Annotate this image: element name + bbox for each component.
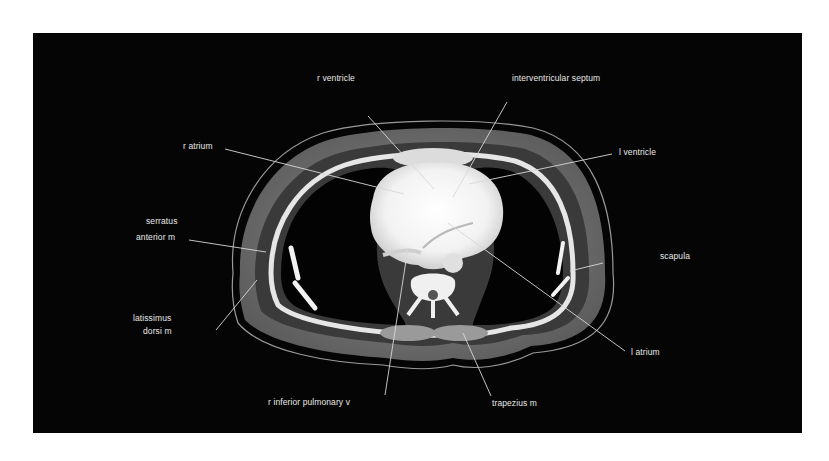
label-r-ventricle: r ventricle [317,73,355,83]
label-r-inferior-pulmonary-v: r inferior pulmonary v [268,397,350,407]
label-latissimus-line1: latissimus [133,313,171,323]
left-trapezius [432,325,488,341]
label-serratus-line1: serratus [146,216,178,226]
label-interventricular-septum: interventricular septum [512,73,600,83]
label-latissimus-line2: dorsi m [143,326,172,336]
descending-aorta [443,253,463,273]
label-trapezius-m: trapezius m [492,398,537,408]
right-trapezius [380,325,436,341]
label-r-atrium: r atrium [183,141,213,151]
label-serratus-line2: anterior m [136,232,175,242]
label-l-ventricle: l ventricle [619,147,656,157]
ct-scan-panel: r ventricle interventricular septum r at… [33,33,802,433]
label-l-atrium: l atrium [631,347,660,357]
label-scapula: scapula [660,251,690,261]
